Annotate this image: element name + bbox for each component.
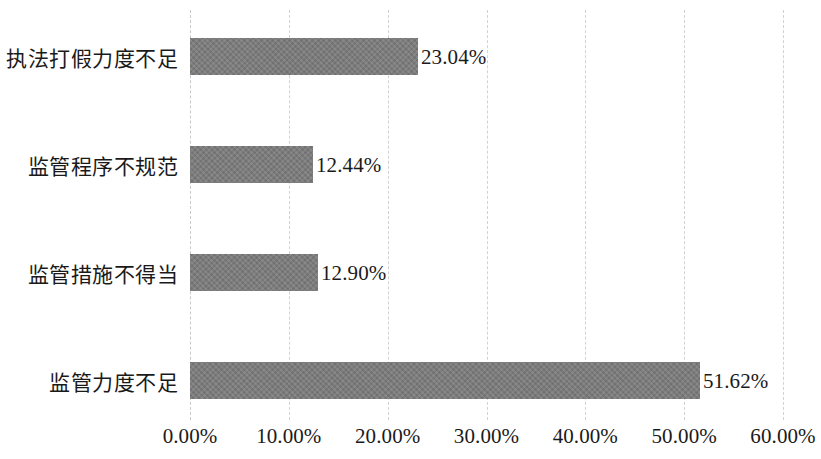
value-label-3: 51.62%	[703, 368, 768, 393]
bar-0	[190, 38, 418, 75]
category-axis-labels: 执法打假力度不足 监管程序不规范 监管措施不得当 监管力度不足	[0, 10, 184, 420]
bar-chart: 执法打假力度不足 监管程序不规范 监管措施不得当 监管力度不足 23.04% 1…	[0, 0, 821, 459]
category-label-1: 监管程序不规范	[28, 146, 179, 183]
category-label-2: 监管措施不得当	[28, 254, 179, 291]
xtick-label-6: 60.00%	[750, 424, 815, 449]
gridline-60	[783, 10, 784, 420]
bar-rows: 23.04% 12.44% 12.90% 51.62%	[190, 10, 783, 420]
value-label-2: 12.90%	[321, 260, 386, 285]
bar-row: 51.62%	[190, 362, 783, 399]
xtick-label-1: 10.00%	[256, 424, 321, 449]
xtick-label-5: 50.00%	[652, 424, 717, 449]
xtick-label-0: 0.00%	[163, 424, 218, 449]
value-label-1: 12.44%	[316, 152, 381, 177]
x-axis-tick-labels: 0.00% 10.00% 20.00% 30.00% 40.00% 50.00%…	[190, 424, 783, 456]
bar-1	[190, 146, 313, 183]
bar-row: 23.04%	[190, 38, 783, 75]
xtick-label-4: 40.00%	[553, 424, 618, 449]
category-label-3: 监管力度不足	[49, 362, 178, 399]
bar-row: 12.90%	[190, 254, 783, 291]
bar-2	[190, 254, 318, 291]
bar-3	[190, 362, 700, 399]
value-label-0: 23.04%	[421, 44, 486, 69]
xtick-label-2: 20.00%	[355, 424, 420, 449]
category-label-0: 执法打假力度不足	[6, 38, 178, 75]
xtick-label-3: 30.00%	[454, 424, 519, 449]
plot-area: 23.04% 12.44% 12.90% 51.62%	[190, 10, 783, 420]
bar-row: 12.44%	[190, 146, 783, 183]
